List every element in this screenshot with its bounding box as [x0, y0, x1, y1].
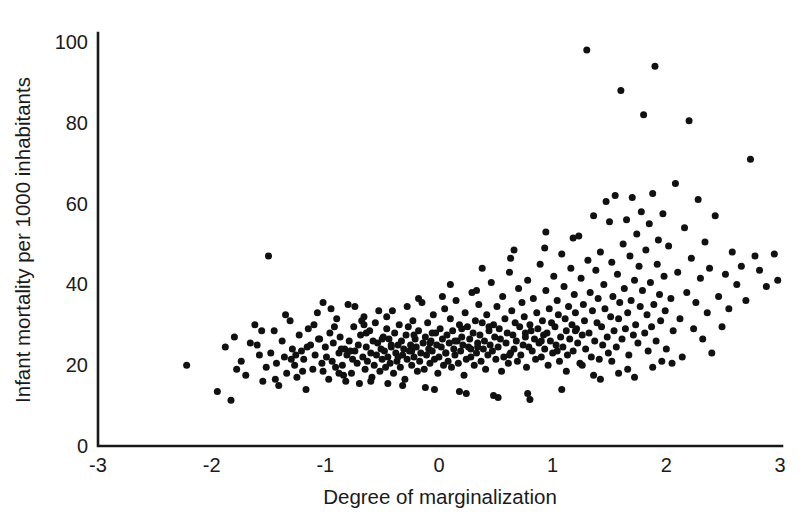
data-point [457, 348, 464, 355]
data-point [515, 285, 522, 292]
data-point [304, 344, 311, 351]
data-point [408, 348, 415, 355]
data-point [605, 350, 612, 357]
data-point [404, 303, 411, 310]
data-point [558, 251, 565, 258]
y-tick-label: 80 [66, 112, 88, 134]
data-point [492, 356, 499, 363]
data-point [638, 208, 645, 215]
data-point [596, 356, 603, 363]
data-point [501, 315, 508, 322]
data-point [472, 317, 479, 324]
data-point [763, 283, 770, 290]
data-point [408, 362, 415, 369]
data-point [267, 350, 274, 357]
data-point [272, 376, 279, 383]
data-point [475, 301, 482, 308]
data-point [554, 297, 561, 304]
data-point [771, 251, 778, 258]
data-point [521, 313, 528, 320]
data-point [608, 259, 615, 266]
data-point [614, 271, 621, 278]
data-point [375, 307, 382, 314]
data-point [670, 327, 677, 334]
data-point [571, 291, 578, 298]
data-point [410, 331, 417, 338]
data-point [263, 364, 270, 371]
data-point [690, 325, 697, 332]
data-point [434, 370, 441, 377]
data-point [722, 271, 729, 278]
data-point [578, 275, 585, 282]
data-point [542, 287, 549, 294]
data-point [330, 339, 337, 346]
data-point [296, 331, 303, 338]
data-point [599, 342, 606, 349]
data-point [676, 315, 683, 322]
data-point [275, 382, 282, 389]
data-point [648, 323, 655, 330]
data-point [631, 277, 638, 284]
data-point [479, 265, 486, 272]
data-point [421, 366, 428, 373]
data-point [476, 331, 483, 338]
data-point [379, 335, 386, 342]
data-point [747, 156, 754, 163]
data-point [565, 303, 572, 310]
data-point [345, 301, 352, 308]
data-point [645, 348, 652, 355]
data-point [282, 311, 289, 318]
data-point [617, 87, 624, 94]
data-point [396, 321, 403, 328]
data-point [384, 354, 391, 361]
data-point [461, 372, 468, 379]
data-point [403, 331, 410, 338]
data-point [431, 386, 438, 393]
data-point [505, 360, 512, 367]
data-point [314, 309, 321, 316]
data-point [556, 358, 563, 365]
data-point [715, 293, 722, 300]
data-point [634, 339, 641, 346]
data-point [524, 277, 531, 284]
data-point [574, 339, 581, 346]
data-point [699, 335, 706, 342]
data-point [624, 309, 631, 316]
data-point [385, 335, 392, 342]
data-point [360, 321, 367, 328]
data-point [615, 370, 622, 377]
data-point [733, 281, 740, 288]
data-point [310, 321, 317, 328]
data-point [509, 331, 516, 338]
data-point [538, 354, 545, 361]
data-point [426, 339, 433, 346]
data-point [395, 354, 402, 361]
data-point [351, 303, 358, 310]
data-point [647, 279, 654, 286]
data-point [649, 190, 656, 197]
data-point [322, 344, 329, 351]
data-point [669, 360, 676, 367]
data-point [437, 325, 444, 332]
data-point [620, 241, 627, 248]
data-point [719, 323, 726, 330]
data-point [650, 301, 657, 308]
data-point [383, 313, 390, 320]
data-point [447, 281, 454, 288]
data-point [372, 319, 379, 326]
data-point [441, 305, 448, 312]
data-point [529, 348, 536, 355]
data-point [247, 339, 254, 346]
data-point [658, 358, 665, 365]
data-point [430, 311, 437, 318]
data-point [451, 337, 458, 344]
scatter-chart-figure: 020406080100 -3-2-10123 Degree of margin… [0, 0, 805, 525]
data-point [601, 305, 608, 312]
data-point [674, 269, 681, 276]
data-point [579, 362, 586, 369]
data-point [354, 360, 361, 367]
data-point [695, 196, 702, 203]
data-point [323, 354, 330, 361]
data-point [558, 386, 565, 393]
data-point [589, 307, 596, 314]
